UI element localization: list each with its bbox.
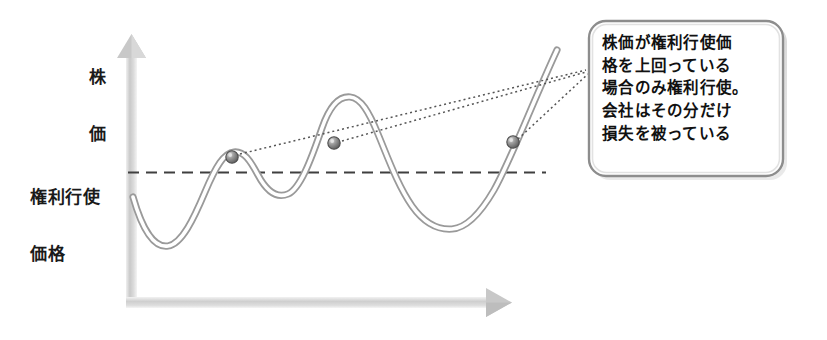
stock-price-curve-outer [133, 50, 557, 246]
arrow-right-icon-highlight [486, 303, 512, 318]
figure-canvas: 株 価 権利行使 価格 株価が権利行使価 格を上回っている 場合のみ権利行使。 … [0, 0, 827, 340]
callout-line-1: 株価が権利行使価 [602, 32, 778, 55]
strike-price-label-line-1: 権利行使 [30, 188, 100, 207]
callout-line-4: 会社はその分だけ [602, 100, 778, 123]
leader-line-1 [240, 70, 586, 154]
callout-line-2: 格を上回っている [602, 55, 778, 78]
exercise-point-1-highlight [228, 153, 232, 157]
exercise-point-3[interactable] [507, 136, 519, 148]
y-axis [117, 34, 146, 304]
exercise-point-3-highlight [509, 138, 513, 142]
callout-leader-lines [240, 70, 588, 154]
callout-line-3: 場合のみ権利行使。 [602, 77, 778, 100]
callout-line-5: 損失を被っている [602, 123, 778, 146]
callout-text: 株価が権利行使価 格を上回っている 場合のみ権利行使。 会社はその分だけ 損失を… [602, 32, 778, 145]
x-axis [126, 288, 512, 317]
arrow-up-icon-highlight [132, 34, 147, 58]
strike-price-label: 権利行使 価格 [30, 150, 100, 302]
strike-price-label-line-2: 価格 [30, 245, 100, 264]
exercise-point-2[interactable] [328, 137, 340, 149]
x-axis-shaft [126, 297, 490, 308]
y-axis-label-char-1: 株 [88, 68, 108, 87]
exercise-point-markers [226, 136, 519, 163]
y-axis-shaft [126, 52, 137, 304]
exercise-point-2-highlight [330, 139, 334, 143]
y-axis-label-char-2: 価 [88, 125, 108, 144]
exercise-point-1[interactable] [226, 151, 238, 163]
